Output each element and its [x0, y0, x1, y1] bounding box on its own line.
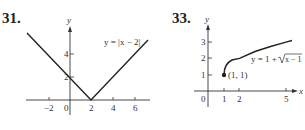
x-tick-label: 2 [89, 103, 94, 113]
figure-number: 33. [172, 10, 191, 26]
x-tick-label: 6 [133, 103, 138, 113]
x-tick-label: 1 [222, 94, 227, 104]
x-tick-label: 2 [237, 94, 242, 104]
figure-31: 31. y −2 0 2 4 6 4 2 y = |x − 2| [2, 10, 150, 115]
y-axis-label: y [204, 14, 209, 24]
y-tick-label: 1 [201, 70, 206, 80]
y-axis-label: y [66, 15, 71, 25]
x-tick-label: 5 [284, 94, 289, 104]
equation-label: y = |x − 2| [104, 37, 140, 47]
y-axis-arrow-icon [68, 26, 72, 32]
start-point-dot [222, 73, 226, 77]
x-axis-arrow-icon [292, 89, 298, 93]
y-tick-label: 3 [201, 37, 206, 47]
figure-33: 33. x y 0 1 2 5 1 2 3 (1, 1) y = 1 + x − [172, 10, 303, 107]
y-axis-arrow-icon [206, 24, 210, 30]
svg-text:x − 1: x − 1 [285, 55, 302, 64]
x-tick-label: 0 [64, 103, 69, 113]
y-tick-label: 2 [201, 53, 206, 63]
x-tick-label: 0 [201, 94, 206, 104]
x-tick-label: −2 [44, 103, 54, 113]
point-label: (1, 1) [228, 70, 248, 80]
figures-canvas: 31. y −2 0 2 4 6 4 2 y = |x − 2| 33. x [0, 0, 305, 130]
equation-label: y = 1 + x − 1 [251, 54, 302, 64]
svg-text:y = 1 +: y = 1 + [251, 54, 277, 64]
x-axis-label: x [298, 86, 303, 96]
figure-number: 31. [2, 10, 21, 26]
y-tick-label: 4 [64, 49, 69, 59]
x-tick-label: 4 [111, 103, 116, 113]
